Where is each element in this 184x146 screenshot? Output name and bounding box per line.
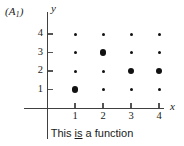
y-tick-mark xyxy=(48,33,53,34)
lattice-point xyxy=(102,33,105,36)
function-point xyxy=(128,68,134,74)
y-axis-line xyxy=(47,12,48,139)
x-tick-label: 4 xyxy=(152,110,166,121)
lattice-point xyxy=(130,51,133,54)
function-point xyxy=(100,49,106,55)
lattice-point xyxy=(158,33,161,36)
x-tick-mark xyxy=(158,103,159,108)
lattice-point xyxy=(102,70,105,73)
lattice-point xyxy=(102,88,105,91)
figure-caption: This is a function xyxy=(0,127,184,139)
lattice-point xyxy=(74,70,77,73)
caption-after: a function xyxy=(83,127,134,139)
function-point xyxy=(72,86,78,92)
lattice-point xyxy=(130,33,133,36)
x-tick-label: 3 xyxy=(124,110,138,121)
panel-label-close: ) xyxy=(20,5,24,17)
y-tick-mark xyxy=(48,89,53,90)
lattice-point xyxy=(74,33,77,36)
y-tick-mark xyxy=(48,70,53,71)
caption-before: This xyxy=(51,127,75,139)
x-tick-mark xyxy=(74,103,75,108)
y-tick-label: 2 xyxy=(31,64,43,75)
y-tick-label: 4 xyxy=(31,27,43,38)
lattice-point xyxy=(130,88,133,91)
x-tick-label: 2 xyxy=(96,110,110,121)
lattice-point xyxy=(74,51,77,54)
lattice-point xyxy=(158,51,161,54)
y-tick-label: 1 xyxy=(31,83,43,94)
x-tick-mark xyxy=(102,103,103,108)
caption-emphasis: is xyxy=(75,127,83,139)
panel-label-open: (A xyxy=(5,5,16,17)
x-tick-label: 1 xyxy=(68,110,82,121)
lattice-point xyxy=(158,88,161,91)
y-tick-label: 3 xyxy=(31,46,43,57)
function-point xyxy=(156,68,162,74)
x-tick-mark xyxy=(130,103,131,108)
function-lattice-figure: (A1) y x 1234 1234 This is a function xyxy=(0,0,184,146)
x-axis-line xyxy=(24,108,164,109)
y-tick-mark xyxy=(48,52,53,53)
x-axis-label: x xyxy=(170,100,175,112)
y-axis-label: y xyxy=(51,2,56,14)
panel-label: (A1) xyxy=(5,5,24,19)
